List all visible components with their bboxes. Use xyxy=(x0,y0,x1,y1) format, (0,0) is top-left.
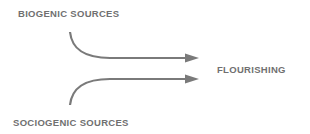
flow-arrows xyxy=(0,0,310,134)
biogenic-arrow xyxy=(70,32,199,63)
sociogenic-arrow xyxy=(70,75,199,106)
